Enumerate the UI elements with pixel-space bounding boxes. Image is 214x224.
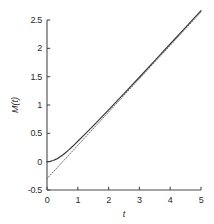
y-tick-label: -0.5	[8, 186, 42, 195]
series-line-m-t-	[47, 11, 201, 162]
x-tick-label: 2	[106, 196, 111, 205]
y-tick-label: 0	[8, 157, 42, 166]
x-tick-label: 1	[75, 196, 80, 205]
y-tick-label: 2	[8, 44, 42, 53]
x-tick-label: 5	[199, 196, 204, 205]
x-tick-label: 0	[45, 196, 50, 205]
y-tick-label: 2.5	[8, 16, 42, 25]
y-tick-label: 1	[8, 101, 42, 110]
x-tick-label: 3	[137, 196, 142, 205]
chart-figure: M(t) t -0.500.511.522.5012345	[0, 0, 214, 224]
y-tick-label: 1.5	[8, 72, 42, 81]
x-axis-title: t	[123, 210, 126, 219]
y-tick-label: 0.5	[8, 129, 42, 138]
series-line-asymptote	[47, 12, 201, 179]
x-tick-label: 4	[168, 196, 173, 205]
